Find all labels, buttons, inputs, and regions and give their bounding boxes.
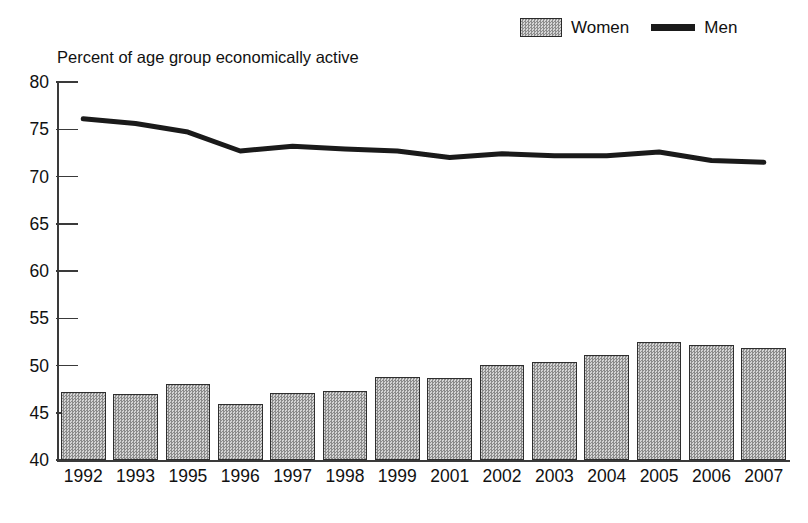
legend-label-men: Men [704, 19, 737, 36]
y-tick-label: 40 [30, 450, 49, 471]
x-tick-label-1999: 1999 [378, 466, 417, 487]
plot-area: 404550556065707580 [57, 82, 790, 460]
legend-item-men: Men [651, 19, 737, 36]
x-tick-label-1997: 1997 [273, 466, 312, 487]
y-tick-label: 60 [30, 261, 49, 282]
legend-line-swatch-icon [651, 24, 695, 31]
x-tick-label-2007: 2007 [744, 466, 783, 487]
y-tick-label: 45 [30, 402, 49, 423]
x-tick-label-1992: 1992 [64, 466, 103, 487]
chart-legend: Women Men [520, 14, 737, 40]
x-tick-label-2006: 2006 [692, 466, 731, 487]
line-series-men [57, 82, 790, 460]
x-tick-label-2001: 2001 [430, 466, 469, 487]
x-tick-label-2002: 2002 [483, 466, 522, 487]
x-axis-line [57, 460, 790, 462]
x-axis-tick-labels: 1992199319951996199719981999200120022003… [57, 466, 790, 496]
x-tick-label-1996: 1996 [221, 466, 260, 487]
x-tick-label-1995: 1995 [168, 466, 207, 487]
y-tick-label: 80 [30, 72, 49, 93]
y-axis-title: Percent of age group economically active [57, 48, 359, 67]
y-tick-label: 55 [30, 308, 49, 329]
x-tick-label-2003: 2003 [535, 466, 574, 487]
men-line-path [83, 119, 764, 162]
x-tick-label-1998: 1998 [325, 466, 364, 487]
y-tick-label: 50 [30, 355, 49, 376]
x-tick-label-2004: 2004 [587, 466, 626, 487]
x-tick-label-1993: 1993 [116, 466, 155, 487]
y-tick-label: 70 [30, 166, 49, 187]
chart-figure: Women Men Percent of age group economica… [0, 0, 808, 523]
legend-bar-swatch-icon [520, 18, 562, 37]
x-tick-label-2005: 2005 [640, 466, 679, 487]
y-tick-label: 65 [30, 213, 49, 234]
legend-label-women: Women [571, 19, 629, 36]
legend-item-women: Women [520, 18, 629, 37]
y-tick-label: 75 [30, 119, 49, 140]
